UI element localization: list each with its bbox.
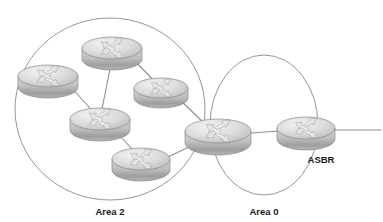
area-label-area-0: Area 0 [249, 206, 278, 217]
abr-router [185, 117, 251, 155]
network-diagram: Area 2Area 0ASBR [0, 0, 383, 222]
area2-router-left [18, 63, 78, 98]
area-label-area-2: Area 2 [95, 206, 124, 217]
routers-layer [18, 35, 335, 181]
asbr-label: ASBR [308, 154, 335, 165]
area2-router-right [134, 76, 188, 108]
link-abr-to-asbr [251, 131, 279, 133]
network-diagram-canvas: Area 2Area 0ASBR [0, 0, 383, 222]
area2-router-top [82, 35, 142, 70]
area2-router-bottom [112, 146, 170, 181]
asbr-router [277, 115, 335, 150]
area2-router-center [70, 106, 130, 141]
